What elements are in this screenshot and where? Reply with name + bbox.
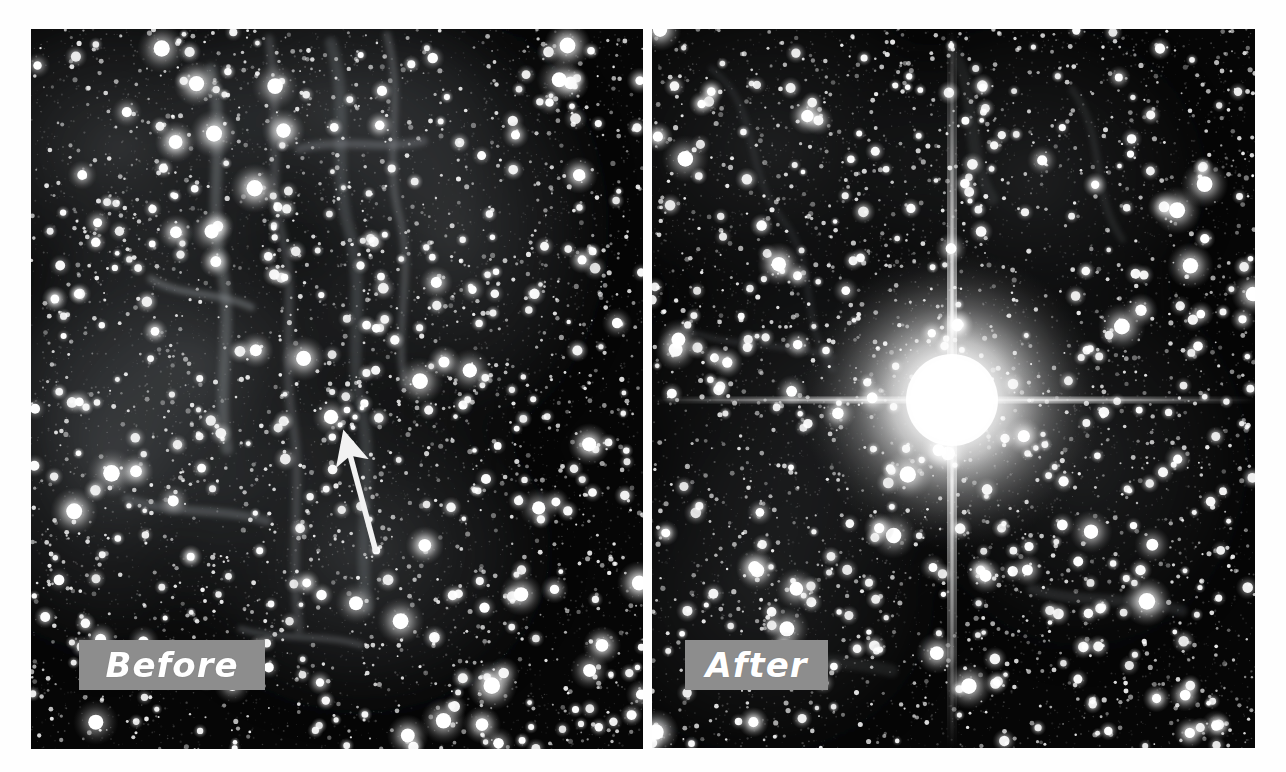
panel-before[interactable]: Before xyxy=(31,29,643,749)
before-after-figure: Before After xyxy=(0,0,1286,772)
panel-after[interactable]: After xyxy=(652,29,1255,748)
label-before: Before xyxy=(79,640,265,690)
label-after: After xyxy=(685,640,828,690)
